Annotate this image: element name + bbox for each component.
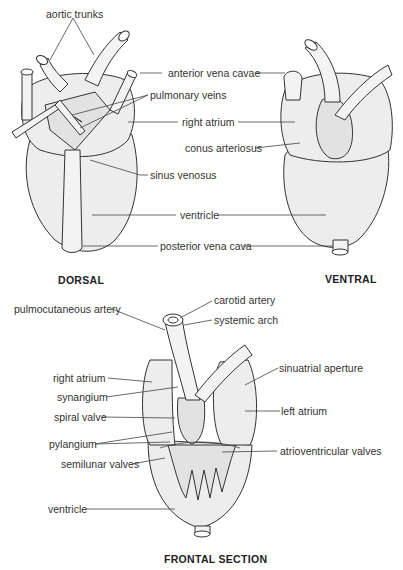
dorsal-heart-drawing [12,29,138,252]
label-pulmonary-veins: pulmonary veins [150,89,226,101]
frontal-section-drawing [143,314,257,537]
dorsal-posterior-vena-cava-shape [62,150,82,253]
ventral-anterior-vena-cava-left [284,71,302,100]
label-ventricle-frontal: ventricle [48,503,87,515]
label-anterior-vena-cavae: anterior vena cavae [168,67,260,79]
frontal-conus-shape [178,398,205,444]
label-pulmocutaneous-artery: pulmocutaneous artery [14,303,121,315]
label-posterior-vena-cava: posterior vena cava [160,240,252,252]
label-aortic-trunks: aortic trunks [46,8,103,20]
label-spiral-valve: spiral valve [54,411,107,423]
label-right-atrium-frontal: right atrium [53,372,106,384]
caption-ventral: VENTRAL [325,273,377,285]
label-sinuatrial-aperture: sinuatrial aperture [279,362,363,374]
caption-dorsal: DORSAL [58,274,104,286]
label-atrioventricular-valves: atrioventricular valves [280,445,382,457]
ventral-heart-drawing [281,38,392,255]
label-left-atrium: left atrium [281,405,327,417]
label-semilunar-valves: semilunar valves [61,458,139,470]
label-carotid-artery: carotid artery [214,294,275,306]
label-sinus-venosus: sinus venosus [150,169,217,181]
label-ventricle: ventricle [180,209,219,221]
label-pylangium: pylangium [49,438,97,450]
label-systemic-arch: systemic arch [214,314,278,326]
label-synangium: synangium [57,391,108,403]
dorsal-anterior-vena-cava-left [22,72,32,120]
label-right-atrium: right atrium [182,116,235,128]
caption-frontal-section: FRONTAL SECTION [164,553,267,565]
label-conus-arteriosus: conus arteriosus [185,142,262,154]
